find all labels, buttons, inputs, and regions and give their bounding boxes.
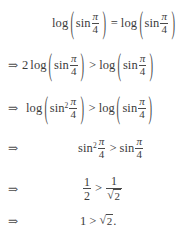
fraction-denominator: 4 <box>92 23 100 36</box>
relation-5: > <box>95 181 102 196</box>
log-left-2: log <box>30 58 46 73</box>
fraction-numerator: π <box>98 136 106 148</box>
paren-open-1b: ( <box>139 3 143 42</box>
implies-arrow-3: ⇒ <box>0 101 22 116</box>
fraction-denominator: 4 <box>160 23 168 36</box>
fraction-numerator: π <box>139 53 147 65</box>
square-root-expression: √ 2 <box>107 189 121 203</box>
fraction-left-1: π 4 <box>92 11 100 35</box>
fraction-denominator: 2 <box>83 188 91 202</box>
sin-left-4: sin <box>78 141 93 156</box>
relation-4: > <box>109 141 116 156</box>
sin-left-2: sin <box>54 58 69 73</box>
fraction-denominator: √ 2 <box>106 188 122 203</box>
paren-open-3b: ( <box>117 88 121 127</box>
implies-arrow-5: ⇒ <box>0 182 22 197</box>
paren-close-3: ) <box>80 88 84 127</box>
sin-right-4: sin <box>120 141 135 156</box>
sin-right-3: sin <box>122 101 137 116</box>
fraction-denominator: 4 <box>69 108 77 121</box>
relation-2: > <box>89 58 96 73</box>
log-left-1: log <box>52 16 68 31</box>
math-derivation-sheet: log ( sin π 4 ) = log ( sin π 4 ) ⇒ 2 lo… <box>0 0 178 234</box>
equation-line-3: ⇒ log ( sin 2 π 4 ) > log ( sin π 4 ) <box>0 93 178 123</box>
fraction-one-half: 1 2 <box>83 176 91 202</box>
implies-arrow-4: ⇒ <box>0 141 22 156</box>
fraction-denominator: 4 <box>98 148 106 161</box>
left-hand-side-6: 1 <box>80 214 86 229</box>
equation-4-expression: sin 2 π 4 > sin π 4 <box>78 136 144 160</box>
paren-close-2b: ) <box>149 45 153 84</box>
fraction-numerator: π <box>135 136 143 148</box>
equation-line-6: ⇒ 1 > √ 2 . <box>0 210 178 232</box>
square-root-expression-6: √ 2 <box>100 214 114 228</box>
coefficient-2: 2 <box>22 58 28 73</box>
implies-arrow-2: ⇒ <box>0 58 22 73</box>
fraction-numerator: π <box>70 53 78 65</box>
relation-6: > <box>89 214 96 229</box>
fraction-right-3: π 4 <box>138 96 146 120</box>
paren-close-3b: ) <box>149 88 153 127</box>
radicand: 2 <box>113 189 121 203</box>
fraction-denominator: 4 <box>138 108 146 121</box>
paren-close-1: ) <box>102 3 106 42</box>
exponent-4: 2 <box>93 141 97 150</box>
fraction-numerator: π <box>160 11 168 23</box>
fraction-denominator: 4 <box>139 65 147 78</box>
sin-left-3: sin <box>50 101 65 116</box>
paren-open-3: ( <box>44 88 48 127</box>
fraction-right-2: π 4 <box>139 53 147 77</box>
log-right-1: log <box>121 16 137 31</box>
equation-line-4: ⇒ sin 2 π 4 > sin π 4 <box>0 134 178 162</box>
log-left-3: log <box>26 101 42 116</box>
fraction-right-1: π 4 <box>160 11 168 35</box>
sin-left-1: sin <box>76 16 91 31</box>
fraction-left-3: π 4 <box>69 96 77 120</box>
paren-open-1: ( <box>70 3 74 42</box>
equation-6-expression: 1 > √ 2 . <box>80 214 117 229</box>
equation-5-expression: 1 2 > 1 √ 2 <box>82 175 123 203</box>
paren-open-2: ( <box>49 45 53 84</box>
relation-3: > <box>89 101 96 116</box>
fraction-denominator: 4 <box>70 65 78 78</box>
fraction-right-4: π 4 <box>135 136 143 160</box>
period-6: . <box>113 214 116 229</box>
equation-line-5: ⇒ 1 2 > 1 √ 2 <box>0 174 178 204</box>
radicand: 2 <box>106 214 114 228</box>
fraction-denominator: 4 <box>135 148 143 161</box>
fraction-numerator: 1 <box>83 176 91 189</box>
fraction-one-over-root-two: 1 √ 2 <box>106 175 122 203</box>
equation-line-2: ⇒ 2 log ( sin π 4 ) > log ( sin π 4 ) <box>0 50 178 80</box>
log-right-3: log <box>99 101 115 116</box>
relation-1: = <box>111 16 118 31</box>
paren-close-2: ) <box>80 45 84 84</box>
fraction-numerator: π <box>92 11 100 23</box>
equation-2-expression: 2 log ( sin π 4 ) > log ( sin π 4 ) <box>22 53 155 77</box>
fraction-numerator: π <box>138 96 146 108</box>
fraction-numerator: 1 <box>110 175 118 188</box>
equation-1-expression: log ( sin π 4 ) = log ( sin π 4 ) <box>52 11 177 35</box>
paren-close-1b: ) <box>171 3 175 42</box>
implies-arrow-6: ⇒ <box>0 214 22 229</box>
paren-open-2b: ( <box>117 45 121 84</box>
fraction-left-4: π 4 <box>98 136 106 160</box>
equation-3-expression: log ( sin 2 π 4 ) > log ( sin π 4 ) <box>26 96 154 120</box>
fraction-numerator: π <box>69 96 77 108</box>
fraction-left-2: π 4 <box>70 53 78 77</box>
exponent-3: 2 <box>65 101 69 110</box>
sin-right-2: sin <box>123 58 138 73</box>
equation-line-1: log ( sin π 4 ) = log ( sin π 4 ) <box>0 8 178 38</box>
sin-right-1: sin <box>145 16 160 31</box>
log-right-2: log <box>99 58 115 73</box>
